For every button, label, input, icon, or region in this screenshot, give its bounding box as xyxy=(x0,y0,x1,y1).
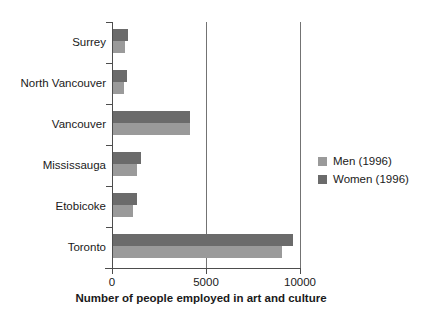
legend-label-women: Women (1996) xyxy=(333,173,409,186)
bar-group-mississauga xyxy=(112,145,300,186)
bar-women-toronto xyxy=(113,234,293,246)
y-axis-labels: Surrey North Vancouver Vancouver Mississ… xyxy=(0,22,106,268)
bar-chart: Surrey North Vancouver Vancouver Mississ… xyxy=(0,0,446,318)
bar-women-mississauga xyxy=(113,152,141,164)
x-axis-tick-5000 xyxy=(206,268,207,274)
y-axis-label-mississauga: Mississauga xyxy=(2,159,106,171)
bar-group-etobicoke xyxy=(112,186,300,227)
y-axis-label-etobicoke: Etobicoke xyxy=(2,200,106,212)
bar-men-vancouver xyxy=(113,123,190,135)
legend-entry-women: Women (1996) xyxy=(318,170,409,188)
gridline-10000 xyxy=(300,22,301,269)
legend-swatch-men-icon xyxy=(318,157,327,166)
bar-men-mississauga xyxy=(113,164,137,176)
bar-women-surrey xyxy=(113,29,128,41)
x-axis-label-10000: 10000 xyxy=(284,276,316,289)
y-axis-label-north-vancouver: North Vancouver xyxy=(2,77,106,89)
x-axis-tick-10000 xyxy=(300,268,301,274)
x-axis-label-0: 0 xyxy=(109,276,115,289)
x-axis-tick-0 xyxy=(112,268,113,274)
legend-entry-men: Men (1996) xyxy=(318,152,409,170)
bar-group-toronto xyxy=(112,227,300,268)
legend-label-men: Men (1996) xyxy=(333,155,392,168)
x-axis-line xyxy=(105,268,301,269)
bar-men-surrey xyxy=(113,41,125,53)
y-axis-label-surrey: Surrey xyxy=(2,36,106,48)
x-axis-title: Number of people employed in art and cul… xyxy=(0,292,402,304)
y-axis-label-toronto: Toronto xyxy=(2,241,106,253)
bar-men-etobicoke xyxy=(113,205,133,217)
bar-men-north-vancouver xyxy=(113,82,124,94)
bar-women-etobicoke xyxy=(113,193,137,205)
bar-women-north-vancouver xyxy=(113,70,127,82)
plot-area xyxy=(112,22,300,268)
bar-men-toronto xyxy=(113,246,282,258)
bar-women-vancouver xyxy=(113,111,190,123)
legend-swatch-women-icon xyxy=(318,175,327,184)
chart-legend: Men (1996) Women (1996) xyxy=(318,152,409,188)
bar-group-surrey xyxy=(112,22,300,63)
y-axis-label-vancouver: Vancouver xyxy=(2,118,106,130)
bar-group-vancouver xyxy=(112,104,300,145)
x-axis-label-5000: 5000 xyxy=(193,276,219,289)
bar-group-north-vancouver xyxy=(112,63,300,104)
